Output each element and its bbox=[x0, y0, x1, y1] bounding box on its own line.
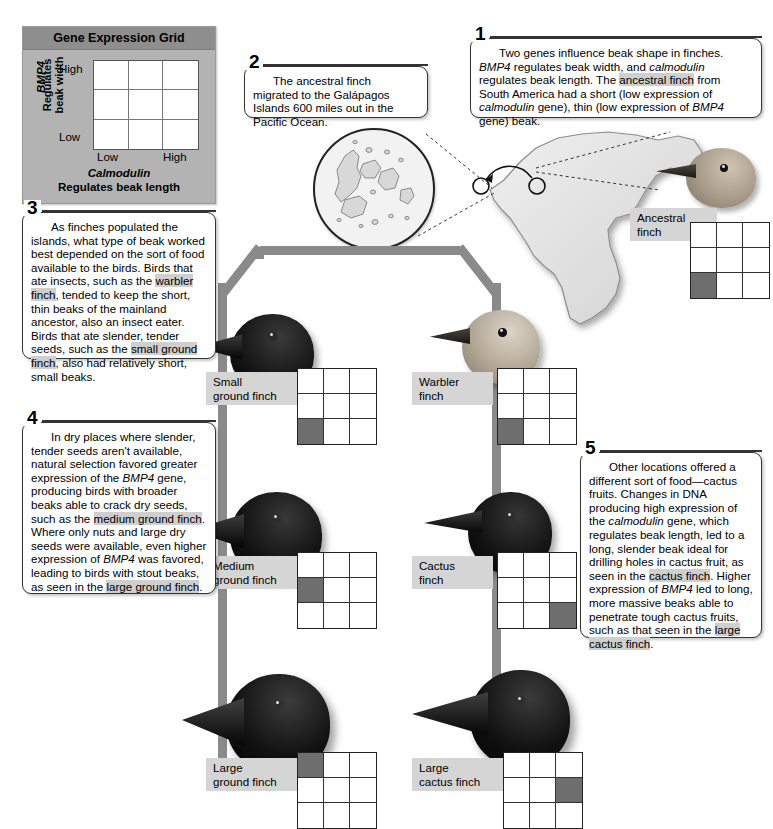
grid-cell bbox=[504, 803, 530, 828]
grid-cell bbox=[504, 753, 530, 778]
species-label-large-cactus: Large cactus finch bbox=[412, 758, 511, 791]
grid-cell bbox=[498, 394, 524, 419]
legend-x-high-label: High bbox=[163, 151, 187, 163]
grid-cell-active bbox=[298, 419, 324, 444]
grid-cell bbox=[524, 553, 550, 578]
legend-cell bbox=[94, 61, 129, 90]
grid-cell bbox=[743, 223, 769, 248]
grid-cell bbox=[524, 578, 550, 603]
grid-cell bbox=[324, 803, 350, 828]
callout-3-text: As finches populated the islands, what t… bbox=[31, 220, 207, 383]
galapagos-inset-circle bbox=[313, 128, 435, 250]
grid-cell bbox=[498, 603, 524, 628]
grid-cell bbox=[350, 419, 376, 444]
legend-cell bbox=[94, 90, 129, 119]
grid-cell bbox=[324, 419, 350, 444]
species-grid-ancestral bbox=[690, 222, 770, 299]
callout-1-text: Two genes influence beak shape in finche… bbox=[479, 46, 753, 128]
grid-cell bbox=[350, 803, 376, 828]
legend-x-axis-description: Regulates beak length bbox=[23, 181, 215, 193]
grid-cell bbox=[298, 369, 324, 394]
species-grid-large-cactus bbox=[503, 752, 583, 829]
grid-cell bbox=[550, 578, 576, 603]
legend-x-gene-label: Calmodulin bbox=[23, 167, 215, 179]
grid-cell bbox=[717, 223, 743, 248]
species-grid-large-ground bbox=[297, 752, 377, 829]
species-label-cactus: Cactus finch bbox=[412, 556, 493, 589]
grid-cell bbox=[324, 753, 350, 778]
grid-cell bbox=[504, 778, 530, 803]
grid-cell bbox=[298, 803, 324, 828]
galapagos-islands bbox=[315, 130, 433, 248]
callout-4-text: In dry places where slender, tender seed… bbox=[31, 430, 207, 593]
tree-crossbar bbox=[260, 246, 460, 255]
callout-4-number: 4 bbox=[24, 410, 41, 426]
callout-3: As finches populated the islands, what t… bbox=[22, 212, 216, 359]
grid-cell bbox=[524, 369, 550, 394]
grid-cell bbox=[350, 394, 376, 419]
legend-cell bbox=[163, 120, 198, 149]
grid-cell bbox=[717, 273, 743, 298]
species-label-small-ground: Small ground finch bbox=[206, 372, 305, 405]
legend-cell bbox=[163, 61, 198, 90]
grid-cell-active bbox=[550, 603, 576, 628]
callout-1: Two genes influence beak shape in finche… bbox=[470, 38, 762, 118]
grid-cell bbox=[743, 248, 769, 273]
grid-cell bbox=[298, 553, 324, 578]
grid-cell bbox=[350, 578, 376, 603]
species-label-large-ground: Large ground finch bbox=[206, 758, 305, 791]
grid-cell bbox=[298, 603, 324, 628]
legend-cell bbox=[129, 61, 164, 90]
grid-cell bbox=[324, 578, 350, 603]
callout-2-number: 2 bbox=[246, 54, 263, 70]
grid-cell bbox=[550, 394, 576, 419]
grid-cell bbox=[324, 394, 350, 419]
legend-cell bbox=[129, 120, 164, 149]
grid-cell bbox=[524, 603, 550, 628]
grid-cell bbox=[350, 603, 376, 628]
legend-cell bbox=[163, 90, 198, 119]
grid-cell bbox=[498, 369, 524, 394]
grid-cell bbox=[530, 753, 556, 778]
grid-cell bbox=[691, 248, 717, 273]
grid-cell bbox=[556, 803, 582, 828]
callout-5-number: 5 bbox=[582, 440, 599, 456]
species-grid-warbler bbox=[497, 368, 577, 445]
grid-cell bbox=[556, 753, 582, 778]
legend-x-low-label: Low bbox=[97, 151, 118, 163]
grid-cell bbox=[324, 369, 350, 394]
bird-ancestral-finch bbox=[656, 146, 760, 212]
grid-cell-active bbox=[691, 273, 717, 298]
grid-cell bbox=[743, 273, 769, 298]
callout-4: In dry places where slender, tender seed… bbox=[22, 422, 216, 594]
callout-1-number: 1 bbox=[472, 26, 489, 42]
grid-cell bbox=[350, 753, 376, 778]
grid-cell bbox=[324, 778, 350, 803]
grid-cell-active bbox=[498, 419, 524, 444]
grid-cell bbox=[298, 394, 324, 419]
grid-cell-active bbox=[298, 578, 324, 603]
callout-2: The ancestral finch migrated to the Galá… bbox=[244, 66, 428, 118]
species-label-warbler: Warbler finch bbox=[412, 372, 493, 405]
grid-cell bbox=[524, 419, 550, 444]
legend-cell bbox=[129, 90, 164, 119]
gene-expression-legend: Gene Expression Grid High Low Low High B… bbox=[22, 26, 216, 204]
species-label-medium-ground: Medium ground finch bbox=[206, 556, 305, 589]
grid-cell bbox=[550, 369, 576, 394]
grid-cell bbox=[324, 603, 350, 628]
grid-cell bbox=[324, 553, 350, 578]
grid-cell bbox=[530, 803, 556, 828]
grid-cell bbox=[550, 553, 576, 578]
species-grid-cactus bbox=[497, 552, 577, 629]
legend-grid bbox=[93, 60, 199, 150]
grid-cell bbox=[350, 369, 376, 394]
grid-cell bbox=[691, 223, 717, 248]
callout-2-text: The ancestral finch migrated to the Galá… bbox=[253, 74, 419, 128]
grid-cell bbox=[298, 778, 324, 803]
grid-cell bbox=[350, 553, 376, 578]
species-grid-medium-ground bbox=[297, 552, 377, 629]
grid-cell bbox=[550, 419, 576, 444]
grid-cell bbox=[524, 394, 550, 419]
grid-cell-active bbox=[556, 778, 582, 803]
grid-cell-active bbox=[298, 753, 324, 778]
